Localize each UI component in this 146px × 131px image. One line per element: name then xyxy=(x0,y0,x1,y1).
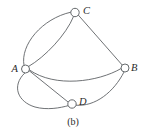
nodes-group xyxy=(22,8,130,108)
node-circle-a[interactable] xyxy=(22,65,30,73)
edge-c-b xyxy=(78,15,122,65)
node-circle-d[interactable] xyxy=(68,100,76,108)
node-label-d: D xyxy=(79,97,87,108)
edge-a-d-upper xyxy=(29,71,68,102)
node-label-a: A xyxy=(12,64,18,75)
edge-a-c-outer xyxy=(24,12,71,65)
edges-group xyxy=(17,12,124,108)
edge-a-b xyxy=(30,69,122,82)
node-circle-c[interactable] xyxy=(71,8,79,16)
edge-a-c-inner xyxy=(29,17,74,67)
node-label-b: B xyxy=(131,63,137,74)
graph-figure: A B C D (b) xyxy=(0,0,146,131)
graph-canvas xyxy=(0,0,146,131)
edge-a-d-lower xyxy=(17,73,68,109)
node-circle-b[interactable] xyxy=(121,64,129,72)
figure-caption: (b) xyxy=(0,117,146,127)
node-label-c: C xyxy=(83,6,90,17)
